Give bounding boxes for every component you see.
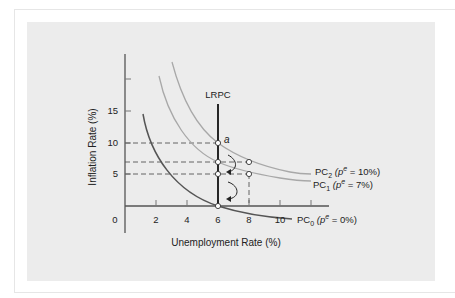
svg-text:5: 5 xyxy=(113,168,118,179)
svg-text:2: 2 xyxy=(153,214,158,225)
svg-text:15: 15 xyxy=(107,105,118,116)
lrpc-label: LRPC xyxy=(205,89,230,100)
point-a xyxy=(215,140,220,145)
svg-text:10: 10 xyxy=(107,137,118,148)
y-ticks xyxy=(125,79,131,174)
equilibrium-points xyxy=(215,140,251,208)
pc2-curve xyxy=(172,62,311,174)
pc1-label: PC1 (pe = 7%) xyxy=(313,178,373,192)
pc2-label: PC2 (pe = 10%) xyxy=(315,165,380,179)
x-axis-title: Unemployment Rate (%) xyxy=(171,237,280,248)
arrowheads xyxy=(226,169,231,202)
svg-text:0: 0 xyxy=(112,214,117,225)
svg-text:10: 10 xyxy=(275,214,286,225)
svg-text:8: 8 xyxy=(246,214,251,225)
x-ticks xyxy=(156,200,311,206)
svg-text:6: 6 xyxy=(215,214,220,225)
point-a-label: a xyxy=(224,134,230,145)
y-axis-title: Inflation Rate (%) xyxy=(87,108,98,185)
pc0-label: PC0 (pe = 0%) xyxy=(297,213,357,227)
svg-text:4: 4 xyxy=(184,214,189,225)
y-tick-labels: 5 10 15 xyxy=(107,105,118,179)
